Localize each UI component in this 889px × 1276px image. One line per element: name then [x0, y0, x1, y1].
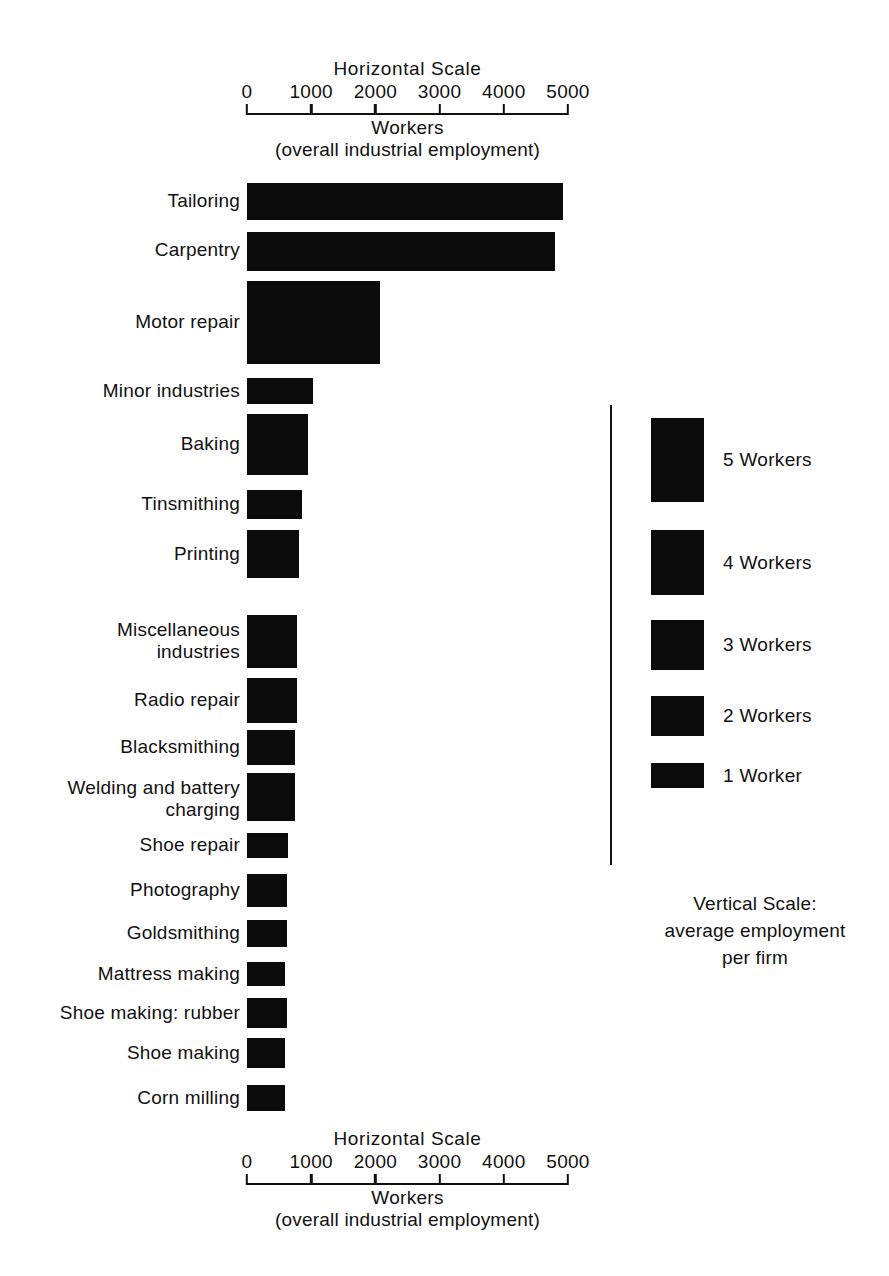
bar [247, 678, 297, 723]
axis-tick-label: 0 [242, 81, 253, 103]
bottom-axis-rule [247, 1183, 568, 1185]
bar-category-label: Miscellaneous industries [10, 619, 240, 663]
bar [247, 1038, 285, 1068]
bar [247, 615, 297, 668]
legend: 5 Workers4 Workers3 Workers2 Workers1 Wo… [610, 405, 889, 875]
bar [247, 490, 302, 519]
axis-tick-mark [246, 104, 248, 115]
bar [247, 833, 288, 858]
bar-category-label: Motor repair [10, 311, 240, 333]
bar-category-label: Shoe repair [10, 834, 240, 856]
bar-category-label: Tailoring [10, 190, 240, 212]
top-axis-tick-labels: 010002000300040005000 [247, 81, 568, 103]
bar [247, 530, 299, 578]
axis-tick-label: 4000 [482, 81, 525, 103]
axis-tick-label: 0 [242, 1151, 253, 1173]
top-axis-line [247, 103, 568, 115]
axis-tick-mark [567, 104, 569, 115]
axis-tick-label: 2000 [354, 1151, 397, 1173]
bar-category-label: Printing [10, 543, 240, 565]
axis-tick-mark [374, 104, 376, 115]
axis-tick-mark [374, 1174, 376, 1185]
axis-tick-label: 5000 [546, 1151, 589, 1173]
bottom-axis-subtitle: (overall industrial employment) [167, 1209, 648, 1231]
bar-category-label: Radio repair [10, 689, 240, 711]
legend-swatch [651, 696, 704, 736]
bar-category-label: Tinsmithing [10, 493, 240, 515]
legend-label: 4 Workers [723, 552, 812, 574]
bar-category-label: Blacksmithing [10, 736, 240, 758]
bottom-axis-line [247, 1173, 568, 1185]
bar [247, 962, 285, 986]
axis-tick-label: 1000 [289, 1151, 332, 1173]
top-axis-unit-label: Workers [247, 117, 568, 139]
legend-caption: Vertical Scale: average employment per f… [630, 890, 880, 971]
bar [247, 730, 295, 765]
axis-tick-mark [310, 104, 312, 115]
legend-swatch [651, 530, 704, 595]
axis-tick-label: 3000 [418, 81, 461, 103]
axis-tick-label: 4000 [482, 1151, 525, 1173]
bar-category-label: Photography [10, 879, 240, 901]
bar [247, 920, 287, 947]
bar-category-label: Mattress making [10, 963, 240, 985]
axis-tick-label: 2000 [354, 81, 397, 103]
top-axis-title: Horizontal Scale [247, 58, 568, 80]
axis-tick-label: 5000 [546, 81, 589, 103]
top-axis-rule [247, 113, 568, 115]
bar-category-label: Baking [10, 433, 240, 455]
axis-tick-mark [503, 1174, 505, 1185]
axis-tick-mark [503, 104, 505, 115]
top-axis-subtitle: (overall industrial employment) [167, 139, 648, 161]
bar [247, 232, 555, 271]
bar [247, 281, 380, 364]
legend-swatch [651, 763, 704, 788]
axis-tick-mark [567, 1174, 569, 1185]
bar [247, 378, 313, 404]
bar [247, 183, 563, 220]
legend-swatch [651, 418, 704, 502]
legend-label: 3 Workers [723, 634, 812, 656]
bar-category-label: Goldsmithing [10, 922, 240, 944]
bar [247, 773, 295, 821]
axis-tick-label: 1000 [289, 81, 332, 103]
bottom-axis-tick-labels: 010002000300040005000 [247, 1151, 568, 1173]
legend-swatch [651, 620, 704, 670]
legend-divider-line [610, 405, 612, 865]
legend-label: 2 Workers [723, 705, 812, 727]
legend-label: 1 Worker [723, 765, 802, 787]
bar-category-label: Minor industries [10, 380, 240, 402]
bar [247, 998, 287, 1028]
axis-tick-label: 3000 [418, 1151, 461, 1173]
bar-category-label: Shoe making [10, 1042, 240, 1064]
bar-category-label: Shoe making: rubber [10, 1002, 240, 1024]
bottom-horizontal-axis: Horizontal Scale 010002000300040005000 W… [247, 1128, 568, 1231]
bottom-axis-title: Horizontal Scale [247, 1128, 568, 1150]
bar [247, 874, 287, 907]
bar [247, 1085, 285, 1111]
axis-tick-mark [438, 1174, 440, 1185]
axis-tick-mark [438, 104, 440, 115]
top-horizontal-axis: Horizontal Scale 010002000300040005000 W… [247, 58, 568, 161]
bar-category-label: Carpentry [10, 239, 240, 261]
axis-tick-mark [246, 1174, 248, 1185]
bar-category-label: Corn milling [10, 1087, 240, 1109]
legend-label: 5 Workers [723, 449, 812, 471]
axis-tick-mark [310, 1174, 312, 1185]
bar-category-label: Welding and battery charging [10, 777, 240, 821]
bottom-axis-unit-label: Workers [247, 1187, 568, 1209]
bar [247, 414, 308, 475]
